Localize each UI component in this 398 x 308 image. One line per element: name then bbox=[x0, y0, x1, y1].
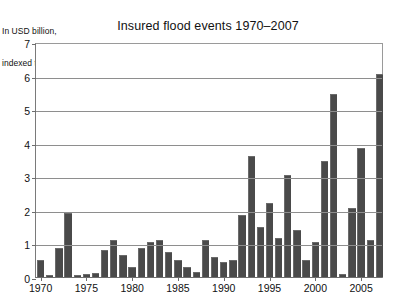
x-axis-tick-mark bbox=[41, 277, 42, 281]
bar-1984 bbox=[165, 252, 172, 277]
bar-1989 bbox=[211, 257, 218, 277]
bar-1976 bbox=[92, 273, 99, 277]
bar-1999 bbox=[302, 260, 309, 277]
bar-1986 bbox=[183, 267, 190, 277]
y-axis-tick-label: 6 bbox=[24, 72, 30, 84]
bar-1994 bbox=[257, 227, 264, 277]
gridline bbox=[36, 245, 382, 246]
x-axis-tick-mark bbox=[361, 277, 362, 281]
y-axis-tick-mark bbox=[32, 78, 36, 79]
y-axis-tick-label: 4 bbox=[24, 139, 30, 151]
x-axis-tick-label: 1980 bbox=[120, 282, 143, 294]
bar-1991 bbox=[229, 260, 236, 277]
gridline bbox=[36, 212, 382, 213]
bar-1971 bbox=[46, 275, 53, 277]
y-axis-tick-mark bbox=[32, 111, 36, 112]
x-axis-tick-label: 2000 bbox=[304, 282, 327, 294]
x-axis-tick-label: 1970 bbox=[29, 282, 52, 294]
chart-title: Insured flood events 1970–2007 bbox=[0, 19, 398, 33]
bar-1974 bbox=[74, 275, 81, 277]
x-axis-tick-label: 1975 bbox=[75, 282, 98, 294]
gridline bbox=[36, 178, 382, 179]
y-axis-tick-mark bbox=[32, 44, 36, 45]
y-axis-tick-mark bbox=[32, 245, 36, 246]
bar-2007 bbox=[376, 74, 383, 277]
x-axis-tick-mark bbox=[315, 277, 316, 281]
bar-2003 bbox=[339, 274, 346, 277]
bar-2004 bbox=[348, 208, 355, 277]
x-axis-tick-label: 1990 bbox=[212, 282, 235, 294]
gridline bbox=[36, 145, 382, 146]
gridline bbox=[36, 78, 382, 79]
bar-1987 bbox=[193, 272, 200, 277]
y-axis-tick-label: 5 bbox=[24, 105, 30, 117]
x-axis-tick-mark bbox=[270, 277, 271, 281]
plot-area: 0123456719701975198019851990199520002005 bbox=[35, 43, 383, 278]
y-axis-tick-mark bbox=[32, 178, 36, 179]
bar-1998 bbox=[293, 230, 300, 277]
bars-layer bbox=[36, 44, 382, 277]
bar-1980 bbox=[128, 267, 135, 277]
bar-1970 bbox=[37, 260, 44, 277]
bar-1982 bbox=[147, 242, 154, 277]
x-axis-tick-label: 1995 bbox=[258, 282, 281, 294]
bar-1990 bbox=[220, 262, 227, 277]
bar-1985 bbox=[174, 260, 181, 277]
y-axis-tick-mark bbox=[32, 212, 36, 213]
bar-1993 bbox=[248, 156, 255, 277]
y-axis-tick-label: 7 bbox=[24, 38, 30, 50]
y-axis-tick-label: 3 bbox=[24, 172, 30, 184]
gridline bbox=[36, 111, 382, 112]
x-axis-tick-mark bbox=[224, 277, 225, 281]
bar-1996 bbox=[275, 238, 282, 277]
x-axis-tick-mark bbox=[86, 277, 87, 281]
bar-2000 bbox=[312, 242, 319, 277]
x-axis-tick-label: 1985 bbox=[166, 282, 189, 294]
bar-1981 bbox=[138, 248, 145, 277]
x-axis-tick-mark bbox=[178, 277, 179, 281]
bar-1979 bbox=[119, 255, 126, 277]
insured-flood-events-chart: In USD billion, indexed to 2007 Insured … bbox=[0, 0, 398, 308]
bar-1995 bbox=[266, 203, 273, 277]
x-axis-tick-mark bbox=[132, 277, 133, 281]
x-axis-tick-label: 2005 bbox=[349, 282, 372, 294]
bar-1997 bbox=[284, 175, 291, 277]
bar-2002 bbox=[330, 94, 337, 277]
bar-1977 bbox=[101, 250, 108, 277]
y-axis-tick-label: 1 bbox=[24, 239, 30, 251]
y-axis-tick-label: 2 bbox=[24, 206, 30, 218]
y-axis-tick-mark bbox=[32, 145, 36, 146]
bar-1972 bbox=[55, 248, 62, 277]
y-axis-tick-mark bbox=[32, 279, 36, 280]
